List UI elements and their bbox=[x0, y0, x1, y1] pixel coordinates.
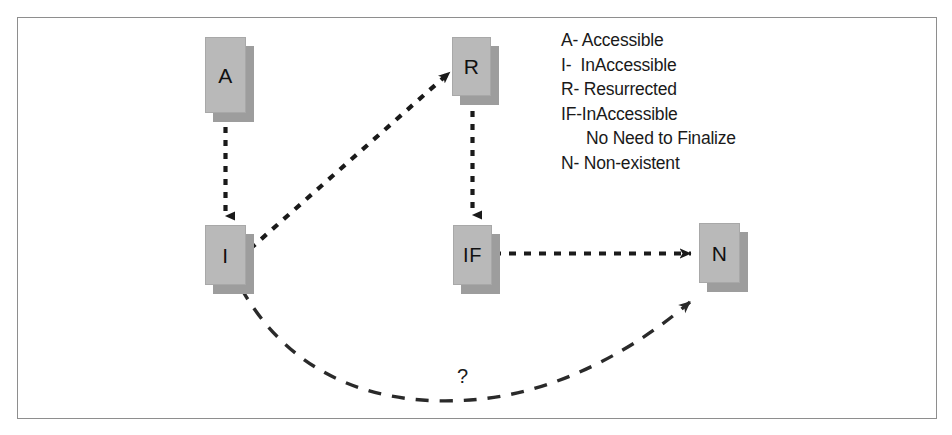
node-a-label: A bbox=[218, 65, 233, 86]
node-i-label: I bbox=[222, 245, 228, 266]
diagram-figure: A I R IF N ? A- Accessible I- InAccessib… bbox=[0, 0, 952, 435]
edge-i-to-r bbox=[250, 72, 450, 249]
node-r-label: R bbox=[464, 56, 480, 77]
legend-item-r: R- Resurrected bbox=[561, 77, 791, 102]
legend-item-n: N- Non-existent bbox=[561, 151, 791, 176]
edge-label-question-mark: ? bbox=[457, 366, 468, 386]
node-n-label: N bbox=[712, 243, 728, 264]
legend: A- Accessible I- InAccessible R- Resurre… bbox=[561, 28, 791, 175]
node-if[interactable]: IF bbox=[453, 225, 492, 285]
node-n[interactable]: N bbox=[699, 223, 740, 283]
legend-item-i: I- InAccessible bbox=[561, 53, 791, 78]
legend-item-if-continued: No Need to Finalize bbox=[561, 126, 791, 151]
node-a[interactable]: A bbox=[205, 37, 246, 113]
node-if-label: IF bbox=[463, 245, 482, 265]
node-i[interactable]: I bbox=[205, 225, 246, 285]
legend-item-if: IF-InAccessible bbox=[561, 102, 791, 127]
legend-item-a: A- Accessible bbox=[561, 28, 791, 53]
node-r[interactable]: R bbox=[452, 37, 491, 96]
